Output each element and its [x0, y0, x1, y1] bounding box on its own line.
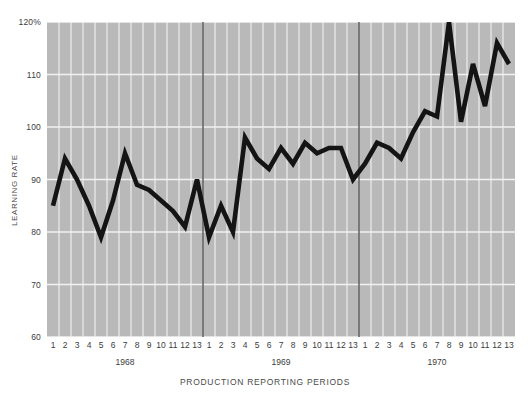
x-tick-label: 5 [99, 340, 104, 350]
x-tick-label: 6 [111, 340, 116, 350]
x-tick-label: 9 [147, 340, 152, 350]
x-tick-label: 7 [435, 340, 440, 350]
x-tick-label: 4 [87, 340, 92, 350]
x-tick-label: 8 [291, 340, 296, 350]
y-tick-70: 70 [31, 280, 41, 290]
x-tick-label: 3 [387, 340, 392, 350]
y-tick-110: 110 [27, 70, 41, 80]
x-tick-label: 10 [468, 340, 477, 350]
y-tick-120: 120% [18, 17, 41, 27]
x-tick-label: 2 [375, 340, 380, 350]
x-tick-label: 11 [481, 340, 490, 350]
plot-area [47, 22, 515, 337]
x-axis-year-labels: 196819691970 [47, 357, 515, 371]
x-axis-title: PRODUCTION REPORTING PERIODS [0, 377, 530, 387]
x-tick-label: 2 [219, 340, 224, 350]
x-tick-label: 1 [363, 340, 368, 350]
y-tick-80: 80 [31, 227, 41, 237]
x-group-label-1970: 1970 [428, 357, 447, 367]
x-tick-label: 5 [255, 340, 260, 350]
x-group-label-1969: 1969 [272, 357, 291, 367]
x-tick-label: 8 [447, 340, 452, 350]
x-tick-label: 7 [123, 340, 128, 350]
x-tick-label: 1 [207, 340, 212, 350]
x-group-label-1968: 1968 [116, 357, 135, 367]
x-tick-label: 9 [459, 340, 464, 350]
y-tick-60: 60 [31, 332, 41, 342]
y-axis-tick-labels: 120%11010090807060 [0, 0, 46, 409]
x-tick-label: 10 [312, 340, 321, 350]
y-tick-100: 100 [26, 122, 41, 132]
plot-svg [47, 22, 515, 337]
x-tick-label: 2 [63, 340, 68, 350]
x-tick-label: 3 [231, 340, 236, 350]
learning-rate-chart: LEARNING RATE 120%11010090807060 1234567… [0, 0, 530, 409]
x-tick-label: 11 [325, 340, 334, 350]
x-axis-tick-labels: 1234567891011121312345678910111213123456… [47, 340, 515, 356]
x-tick-label: 13 [348, 340, 357, 350]
x-tick-label: 4 [399, 340, 404, 350]
x-tick-label: 3 [75, 340, 80, 350]
y-tick-90: 90 [31, 175, 41, 185]
x-tick-label: 5 [411, 340, 416, 350]
x-tick-label: 4 [243, 340, 248, 350]
x-tick-label: 10 [156, 340, 165, 350]
x-tick-label: 9 [303, 340, 308, 350]
learning-rate-line [53, 22, 509, 237]
x-tick-label: 7 [279, 340, 284, 350]
x-tick-label: 6 [423, 340, 428, 350]
x-tick-label: 12 [180, 340, 189, 350]
x-tick-label: 12 [336, 340, 345, 350]
x-tick-label: 13 [504, 340, 513, 350]
x-tick-label: 6 [267, 340, 272, 350]
x-tick-label: 12 [492, 340, 501, 350]
x-tick-label: 8 [135, 340, 140, 350]
x-tick-label: 11 [169, 340, 178, 350]
x-tick-label: 13 [192, 340, 201, 350]
x-tick-label: 1 [51, 340, 56, 350]
